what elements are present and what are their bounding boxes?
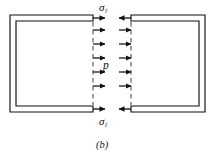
pressure-arrows-right-column bbox=[119, 30, 131, 86]
sigma-longitudinal-top-label: σl bbox=[99, 2, 107, 15]
cut-plane-lines bbox=[93, 22, 131, 105]
pressure-vessel-diagram bbox=[0, 0, 213, 161]
sigma-longitudinal-bottom-label: σl bbox=[99, 116, 107, 129]
pressure-arrows-left-column bbox=[93, 30, 105, 86]
figure-container: σl σl p (b) bbox=[0, 0, 213, 161]
left-shell-outline bbox=[10, 15, 93, 112]
right-shell bbox=[131, 15, 205, 112]
right-shell-outline bbox=[131, 15, 205, 112]
left-shell bbox=[10, 15, 93, 112]
sigma-subscript: l bbox=[104, 121, 106, 129]
figure-caption: (b) bbox=[96, 140, 108, 151]
sigma-subscript: l bbox=[104, 7, 106, 15]
pressure-label: p bbox=[103, 60, 109, 72]
